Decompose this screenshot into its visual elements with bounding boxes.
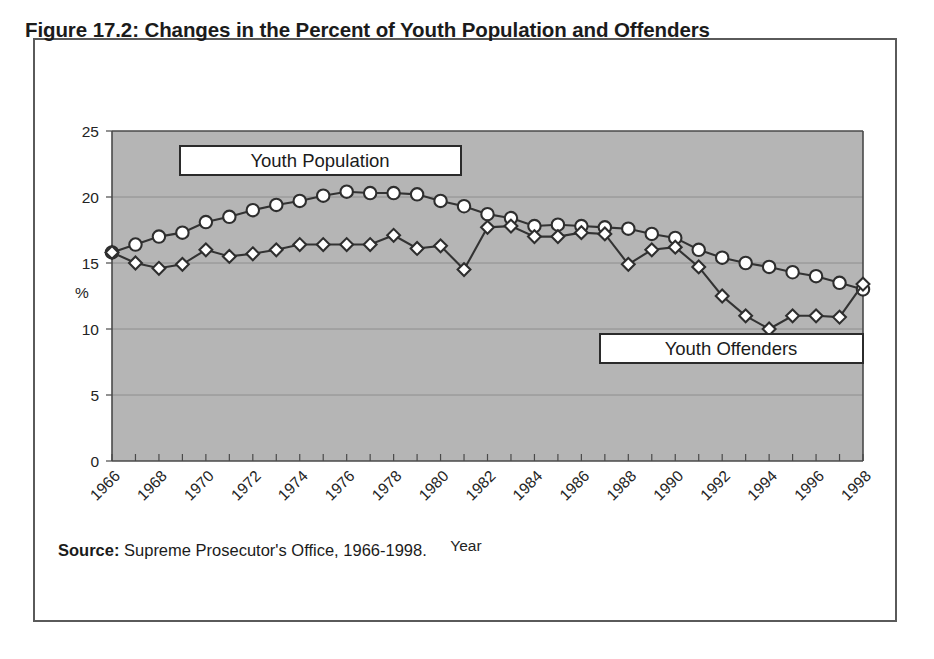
y-tick-label: 0 <box>90 453 99 470</box>
data-point-circle <box>270 199 282 211</box>
data-point-circle <box>153 230 165 242</box>
data-point-circle <box>458 200 470 212</box>
x-tick-label: 1992 <box>697 467 733 503</box>
legend-youth-population: Youth Population <box>180 146 461 175</box>
data-point-circle <box>434 195 446 207</box>
x-tick-label: 1966 <box>87 467 123 503</box>
data-point-circle <box>646 228 658 240</box>
plot-area-background <box>112 131 863 461</box>
data-point-circle <box>810 270 822 282</box>
data-point-circle <box>294 195 306 207</box>
data-point-circle <box>693 244 705 256</box>
data-point-circle <box>763 261 775 273</box>
y-tick-label: 15 <box>82 255 99 272</box>
x-tick-label: 1968 <box>134 467 170 503</box>
y-tick-label: 10 <box>82 321 100 338</box>
x-tick-label: 1974 <box>274 467 311 504</box>
x-tick-label: 1978 <box>368 467 404 503</box>
x-tick-label: 1988 <box>603 467 639 503</box>
x-tick-label: 1986 <box>556 467 592 503</box>
y-tick-label: 25 <box>82 123 99 140</box>
x-tick-label: 1996 <box>791 467 827 503</box>
data-point-circle <box>786 266 798 278</box>
source-text: Supreme Prosecutor's Office, 1966-1998. <box>119 541 426 559</box>
data-point-circle <box>833 277 845 289</box>
data-point-circle <box>200 216 212 228</box>
x-tick-label: 1998 <box>838 467 874 503</box>
source-note: Source: Supreme Prosecutor's Office, 196… <box>58 541 427 560</box>
data-point-circle <box>317 189 329 201</box>
data-point-circle <box>411 188 423 200</box>
x-axis-title: Year <box>450 537 481 554</box>
y-axis-title: % <box>75 284 89 301</box>
x-tick-label: 1984 <box>509 467 546 504</box>
x-axis-tick-labels: 1966196819701972197419761978198019821984… <box>87 467 874 504</box>
y-tick-label: 5 <box>90 387 99 404</box>
data-point-circle <box>739 257 751 269</box>
x-tick-label: 1990 <box>650 467 687 504</box>
x-tick-label: 1976 <box>321 467 357 503</box>
data-point-circle <box>364 187 376 199</box>
x-tick-label: 1972 <box>228 467 264 503</box>
data-point-circle <box>387 187 399 199</box>
data-point-circle <box>247 204 259 216</box>
data-point-circle <box>622 222 634 234</box>
data-point-circle <box>340 186 352 198</box>
x-tick-label: 1994 <box>744 467 781 504</box>
x-tick-label: 1970 <box>181 467 218 504</box>
figure-container: Figure 17.2: Changes in the Percent of Y… <box>0 0 934 659</box>
data-point-circle <box>481 208 493 220</box>
legend-offenders-label: Youth Offenders <box>665 338 798 359</box>
line-chart: 0510152025 19661968197019721974197619781… <box>0 0 934 659</box>
legend-population-label: Youth Population <box>250 150 389 171</box>
data-point-circle <box>129 238 141 250</box>
y-tick-label: 20 <box>82 189 100 206</box>
x-tick-label: 1982 <box>462 467 498 503</box>
data-point-circle <box>223 211 235 223</box>
data-point-circle <box>716 252 728 264</box>
source-label: Source: <box>58 541 119 559</box>
data-point-circle <box>176 226 188 238</box>
x-tick-label: 1980 <box>415 467 452 504</box>
legend-youth-offenders: Youth Offenders <box>600 334 863 363</box>
